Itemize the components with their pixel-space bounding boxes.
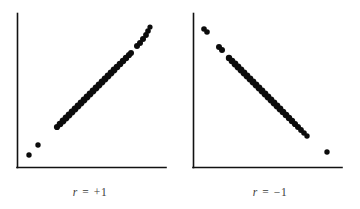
correlation-figure: r = +1 [0, 0, 360, 209]
caption-relation: = [261, 186, 270, 198]
caption-positive: r = +1 [0, 186, 180, 198]
caption-negative: r = −1 [180, 186, 360, 198]
scatter-plot-negative [180, 0, 360, 180]
caption-value: +1 [94, 186, 107, 198]
scatter-panel-positive: r = +1 [0, 0, 180, 209]
caption-value: −1 [274, 186, 287, 198]
data-points-negative [201, 26, 330, 155]
caption-variable: r [73, 186, 78, 198]
caption-variable: r [253, 186, 258, 198]
caption-relation: = [81, 186, 90, 198]
data-points-positive [26, 24, 152, 157]
scatter-panel-negative: r = −1 [180, 0, 360, 209]
scatter-plot-positive [0, 0, 180, 180]
